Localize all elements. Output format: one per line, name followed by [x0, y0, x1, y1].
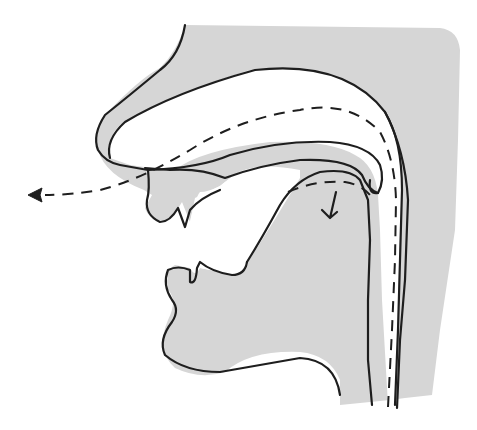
vocal-tract-diagram: [0, 0, 477, 430]
airflow-arrowhead-icon: [28, 188, 42, 202]
